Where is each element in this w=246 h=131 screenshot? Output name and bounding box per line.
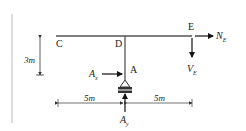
label-e: E bbox=[188, 21, 194, 32]
label-ne: NE bbox=[215, 30, 227, 43]
label-ay: Ay bbox=[119, 114, 129, 127]
structure-diagram: C D E NE VE 3m Ax A Ay 5m 5m bbox=[0, 0, 246, 131]
label-d: D bbox=[115, 38, 122, 49]
support-a bbox=[118, 80, 132, 93]
label-height: 3m bbox=[23, 55, 36, 65]
label-ve: VE bbox=[187, 63, 197, 76]
label-ax: Ax bbox=[88, 68, 98, 81]
label-c: C bbox=[56, 38, 63, 49]
label-a: A bbox=[130, 64, 138, 75]
label-left-span: 5m bbox=[84, 93, 96, 103]
label-right-span: 5m bbox=[154, 93, 166, 103]
